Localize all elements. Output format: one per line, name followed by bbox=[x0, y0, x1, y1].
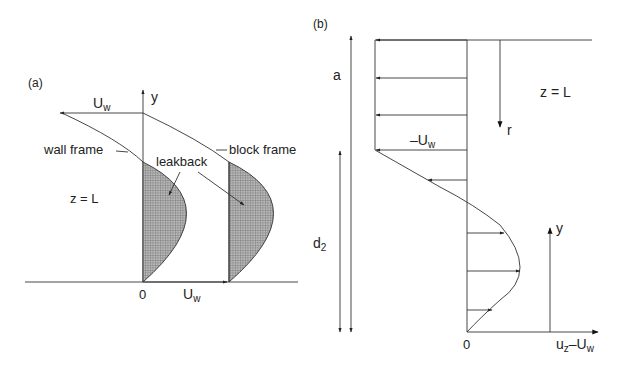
leakback-label: leakback bbox=[156, 154, 208, 169]
dimension-d2-label: d2 bbox=[313, 235, 327, 253]
panel-b-label: (b) bbox=[313, 17, 328, 31]
neg-velocity-label: –Uw bbox=[410, 132, 436, 150]
origin-label-b: 0 bbox=[463, 337, 470, 352]
wall-frame-leader bbox=[116, 151, 128, 152]
block-frame-shaded-profile bbox=[229, 162, 274, 282]
y-axis-label-b: y bbox=[556, 220, 563, 236]
panel-a: (a) y Uw wall frame block frame leakback… bbox=[25, 76, 298, 304]
velocity-profile-curve bbox=[375, 150, 520, 332]
dimension-a-label: a bbox=[333, 67, 341, 83]
y-axis-label-a: y bbox=[151, 89, 158, 105]
wall-frame-label: wall frame bbox=[43, 142, 103, 157]
origin-label-a: 0 bbox=[139, 287, 146, 302]
x-axis-label-b: uz–Uw bbox=[556, 336, 595, 354]
bottom-velocity-label: Uw bbox=[183, 286, 201, 304]
panel-a-label: (a) bbox=[28, 76, 43, 90]
wall-frame-shaded-profile bbox=[143, 162, 187, 282]
position-label-a: z = L bbox=[70, 191, 99, 206]
velocity-profile-diagram: (a) y Uw wall frame block frame leakback… bbox=[0, 0, 626, 369]
top-velocity-label: Uw bbox=[93, 95, 111, 113]
position-label-b: z = L bbox=[540, 84, 571, 100]
panel-b: (b) a d2 –Uw r z = L y 0 bbox=[313, 17, 598, 354]
block-frame-label: block frame bbox=[229, 142, 296, 157]
r-axis-label: r bbox=[507, 122, 512, 138]
